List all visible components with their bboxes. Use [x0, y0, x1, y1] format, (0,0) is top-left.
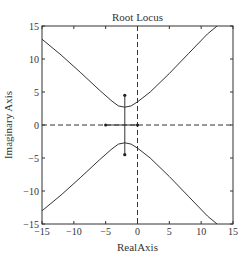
y-tick-label: 15	[29, 21, 39, 32]
root-locus-chart: Root Locus −15−10−5051015 −15−10−5051015…	[0, 0, 249, 258]
x-tick-label: 15	[228, 226, 238, 237]
x-tick-label: 0	[135, 226, 140, 237]
lower-branch	[42, 143, 217, 224]
pole-marker	[104, 123, 107, 126]
x-axis-label: RealAxis	[117, 241, 158, 253]
upper-branch	[42, 26, 217, 107]
pole-marker	[123, 153, 126, 156]
y-tick-label: 0	[34, 120, 39, 131]
chart-title: Root Locus	[112, 11, 163, 23]
x-tick-label: −15	[34, 226, 50, 237]
pole-marker	[123, 94, 126, 97]
x-tick-label: −10	[66, 226, 82, 237]
x-tick-label: 5	[167, 226, 172, 237]
pole-marker	[136, 123, 139, 126]
x-tick-label: −5	[100, 226, 111, 237]
y-tick-label: 10	[29, 54, 39, 65]
y-tick-label: −10	[23, 186, 39, 197]
y-axis-label: Imaginary Axis	[2, 91, 14, 159]
x-tick-label: 10	[196, 226, 206, 237]
y-tick-label: −5	[28, 153, 39, 164]
y-tick-label: 5	[34, 87, 39, 98]
